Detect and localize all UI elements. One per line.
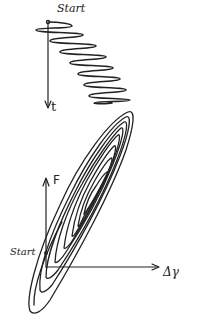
- force-axis-label: F: [53, 173, 60, 187]
- oscillation-curve: [36, 22, 130, 104]
- start-label-bottom: Start: [10, 246, 36, 257]
- hysteresis-loops: [29, 112, 133, 313]
- strain-axis-label: Δγ: [163, 265, 179, 279]
- time-axis-label: t: [51, 99, 56, 114]
- time-axis: [45, 20, 51, 108]
- start-label-top: Start: [57, 2, 85, 15]
